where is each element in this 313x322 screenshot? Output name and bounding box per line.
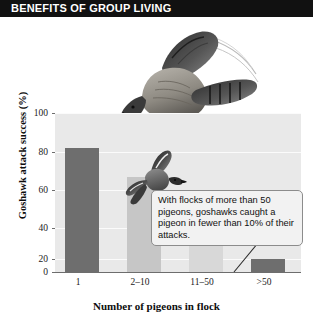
x-tick-label-2-10: 2–10 bbox=[110, 277, 170, 287]
y-tickmark-20 bbox=[52, 259, 55, 260]
y-tickmark-80 bbox=[52, 152, 55, 153]
y-tickmark-40 bbox=[52, 228, 55, 229]
y-tickmark-0 bbox=[52, 272, 55, 273]
x-tick-label-11-50: 11–50 bbox=[172, 277, 232, 287]
y-tickmark-100 bbox=[52, 113, 55, 114]
bar-category-1 bbox=[65, 148, 99, 272]
x-tick-label-gt-50: >50 bbox=[234, 277, 294, 287]
callout-leader-line bbox=[232, 243, 260, 273]
callout-annotation: With flocks of more than 50 pigeons, gos… bbox=[151, 190, 303, 246]
callout-text: With flocks of more than 50 pigeons, gos… bbox=[158, 195, 294, 240]
figure-container: BENEFITS OF GROUP LIVING bbox=[0, 0, 313, 322]
y-tickmark-60 bbox=[52, 190, 55, 191]
x-axis-title: Number of pigeons in flock bbox=[0, 300, 313, 312]
y-axis-title: Goshawk attack success (%) bbox=[17, 71, 28, 241]
y-tick-label-20: 20 bbox=[18, 254, 48, 264]
x-axis-line bbox=[55, 272, 301, 273]
y-tick-label-0: 0 bbox=[18, 267, 48, 277]
page-title: BENEFITS OF GROUP LIVING bbox=[11, 1, 171, 16]
x-tick-label-1: 1 bbox=[48, 277, 108, 287]
title-banner: BENEFITS OF GROUP LIVING bbox=[0, 0, 313, 17]
